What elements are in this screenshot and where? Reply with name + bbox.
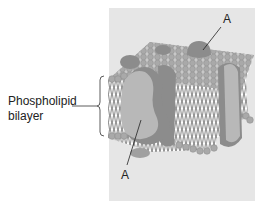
- right-integral-protein: [218, 63, 242, 147]
- membrane-diagram: Phospholipid bilayer A A: [0, 0, 263, 203]
- peripheral-protein: [120, 55, 140, 69]
- bilayer-label: bilayer: [8, 109, 43, 123]
- protein-a-top-label: A: [223, 12, 231, 26]
- phospholipid-label: Phospholipid: [8, 94, 77, 108]
- bilayer-bracket: [97, 76, 104, 136]
- protein-a-bottom-label: A: [121, 168, 129, 182]
- peripheral-protein: [155, 45, 171, 55]
